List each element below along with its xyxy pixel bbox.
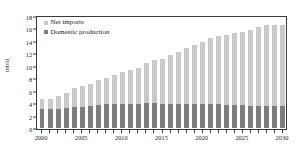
bar-column xyxy=(112,16,117,128)
x-axis-tick-mark xyxy=(162,130,163,133)
x-axis-tick-mark xyxy=(129,130,130,133)
x-axis-tick-mark xyxy=(266,130,267,133)
bar-column xyxy=(264,16,269,128)
bar-segment-domestic-production xyxy=(48,109,53,128)
x-axis-tick-mark xyxy=(218,130,219,133)
x-axis-tick-label: 2020 xyxy=(195,134,208,141)
bar-column xyxy=(240,16,245,128)
bar-segment-domestic-production xyxy=(152,103,157,128)
bar-segment-domestic-production xyxy=(232,105,237,128)
bar-segment-net-imports xyxy=(40,99,45,109)
y-axis-tick-label: 4 xyxy=(29,101,32,108)
bar-column xyxy=(208,16,213,128)
chart-container: 024681012141618 mb/d 2000200520102015202… xyxy=(0,0,302,156)
bar-column xyxy=(168,16,173,128)
bar-segment-net-imports xyxy=(224,35,229,105)
bar-segment-domestic-production xyxy=(104,104,109,128)
x-axis-tick-mark xyxy=(81,130,82,133)
bar-segment-domestic-production xyxy=(64,108,69,128)
x-axis-tick-mark xyxy=(234,130,235,133)
bar-segment-net-imports xyxy=(216,36,221,104)
x-axis-tick-label: 2015 xyxy=(155,134,168,141)
bar-segment-domestic-production xyxy=(264,106,269,128)
bar-segment-net-imports xyxy=(208,38,213,104)
bar-segment-net-imports xyxy=(272,25,277,107)
bar-segment-net-imports xyxy=(152,60,157,103)
bar-segment-net-imports xyxy=(56,96,61,108)
bar-segment-net-imports xyxy=(112,75,117,105)
chart-legend: Net importsDomestic production xyxy=(44,18,109,37)
x-axis-tick-mark xyxy=(250,130,251,133)
bar-column xyxy=(280,16,285,128)
bar-segment-domestic-production xyxy=(80,107,85,128)
x-axis-tick-label: 2025 xyxy=(235,134,248,141)
bar-segment-domestic-production xyxy=(224,105,229,128)
bar-column xyxy=(160,16,165,128)
x-axis-tick-label: 2005 xyxy=(75,134,88,141)
bar-segment-domestic-production xyxy=(96,105,101,128)
legend-swatch-icon xyxy=(44,21,48,25)
bar-segment-domestic-production xyxy=(240,105,245,128)
bar-segment-domestic-production xyxy=(216,104,221,128)
bar-column xyxy=(232,16,237,128)
bar-segment-domestic-production xyxy=(256,106,261,128)
bar-segment-net-imports xyxy=(240,32,245,105)
x-axis-tick-mark xyxy=(153,130,154,133)
x-axis-tick-mark xyxy=(73,130,74,133)
bar-column xyxy=(176,16,181,128)
bar-column xyxy=(272,16,277,128)
bar-segment-domestic-production xyxy=(176,104,181,128)
x-axis-tick-mark xyxy=(210,130,211,133)
bar-segment-domestic-production xyxy=(272,106,277,128)
bar-segment-net-imports xyxy=(248,30,253,106)
bar-segment-net-imports xyxy=(232,33,237,105)
x-axis-tick-mark xyxy=(282,130,283,133)
bar-segment-net-imports xyxy=(160,59,165,104)
x-axis-tick-mark xyxy=(274,130,275,133)
bar-segment-domestic-production xyxy=(72,107,77,128)
bar-segment-domestic-production xyxy=(88,106,93,128)
bar-segment-net-imports xyxy=(104,78,109,105)
x-axis-tick-mark xyxy=(226,130,227,133)
bar-segment-net-imports xyxy=(48,99,53,109)
x-axis-tick-label: 2000 xyxy=(35,134,48,141)
legend-item: Net imports xyxy=(44,18,109,28)
bar-segment-domestic-production xyxy=(248,106,253,128)
x-axis-tick-mark xyxy=(65,130,66,133)
x-axis-tick-mark xyxy=(113,130,114,133)
bar-segment-net-imports xyxy=(192,45,197,103)
bar-segment-net-imports xyxy=(280,25,285,107)
y-axis-tick-label: 0 xyxy=(29,126,32,133)
bar-segment-domestic-production xyxy=(280,106,285,128)
x-axis-tick-mark xyxy=(49,130,50,133)
x-axis-tick-mark xyxy=(258,130,259,133)
bar-segment-net-imports xyxy=(256,27,261,105)
legend-item: Domestic production xyxy=(44,28,109,38)
x-axis-tick-mark xyxy=(145,130,146,133)
y-axis-tick-label: 6 xyxy=(29,88,32,95)
bar-segment-domestic-production xyxy=(192,104,197,128)
bar-segment-net-imports xyxy=(184,48,189,104)
bar-segment-domestic-production xyxy=(120,104,125,128)
y-axis-tick-label: 10 xyxy=(26,63,32,70)
bar-column xyxy=(248,16,253,128)
x-axis-tick-mark xyxy=(89,130,90,133)
x-axis-tick-mark xyxy=(170,130,171,133)
legend-item-label: Domestic production xyxy=(51,28,110,38)
x-axis-tick-mark xyxy=(97,130,98,133)
x-axis-tick-mark xyxy=(242,130,243,133)
bar-segment-net-imports xyxy=(120,72,125,104)
bar-segment-net-imports xyxy=(168,55,173,104)
bar-segment-domestic-production xyxy=(200,104,205,128)
bar-segment-domestic-production xyxy=(112,104,117,128)
y-axis-tick-label: 8 xyxy=(29,76,32,83)
y-axis-title: mb/d xyxy=(3,44,10,88)
bar-segment-net-imports xyxy=(144,63,149,103)
bar-segment-net-imports xyxy=(128,70,133,104)
bar-segment-domestic-production xyxy=(136,104,141,128)
bar-segment-domestic-production xyxy=(40,109,45,128)
bar-column xyxy=(136,16,141,128)
y-axis-tick-label: 18 xyxy=(26,14,32,21)
bar-segment-domestic-production xyxy=(128,104,133,128)
bar-segment-domestic-production xyxy=(168,104,173,128)
